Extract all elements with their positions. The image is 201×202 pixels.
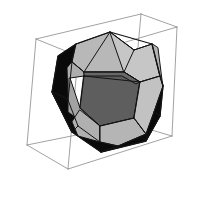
dodecahedron-figure xyxy=(0,0,201,202)
figure-canvas: Regular dodecahedron inscribed in a wire… xyxy=(0,0,201,202)
